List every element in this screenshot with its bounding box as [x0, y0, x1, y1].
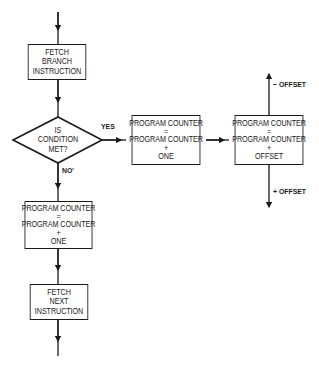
node-text-line: INSTRUCTION: [35, 307, 83, 317]
node-text-line: OFFSET: [255, 152, 283, 162]
node-text-line: ONE: [158, 152, 173, 162]
node-text-line: ONE: [51, 237, 66, 247]
node-text-line: MET?: [24, 145, 93, 154]
fetch-branch-instruction-box: FETCH BRANCH INSTRUCTION: [28, 44, 86, 80]
pc-plus-one-yes-box: PROGRAM COUNTER = PROGRAM COUNTER + ONE: [132, 115, 201, 165]
fetch-next-instruction-box: FETCH NEXT INSTRUCTION: [30, 284, 88, 320]
plus-offset-label: + OFFSET: [273, 187, 306, 196]
pc-plus-offset-box: PROGRAM COUNTER = PROGRAM COUNTER + OFFS…: [235, 115, 304, 165]
pc-plus-one-no-box: PROGRAM COUNTER = PROGRAM COUNTER + ONE: [25, 201, 93, 249]
yes-label: YES: [101, 122, 115, 131]
node-text-line: INSTRUCTION: [33, 67, 81, 77]
minus-offset-label: − OFFSET: [273, 80, 306, 89]
no-label: NO': [62, 166, 74, 175]
decision-text: IS CONDITION MET?: [24, 126, 93, 154]
